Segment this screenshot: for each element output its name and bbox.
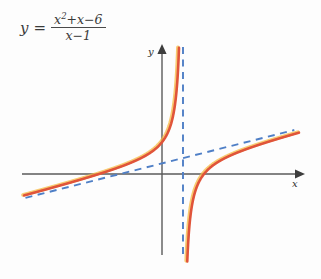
x-axis-label: x	[292, 178, 298, 189]
left-branch-curve	[24, 48, 179, 196]
function-plot: x y	[0, 0, 321, 279]
right-branch-curve	[187, 133, 299, 262]
curve-group	[23, 47, 299, 261]
y-axis-label: y	[147, 46, 154, 57]
asymptotes-group	[26, 47, 295, 256]
y-axis-arrowhead	[157, 44, 166, 54]
figure-container: y = x2+x−6 x−1 x y	[0, 0, 321, 279]
axes-group: x y	[22, 44, 305, 255]
